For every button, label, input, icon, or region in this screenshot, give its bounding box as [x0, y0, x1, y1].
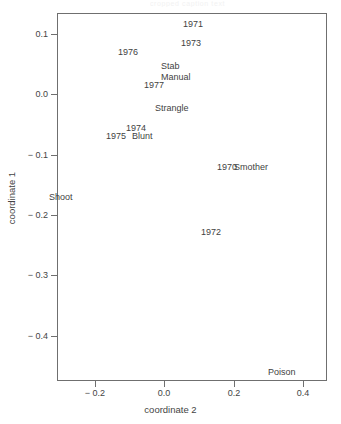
data-point-label-stab: Stab [161, 62, 180, 71]
data-point-label-1973: 1973 [181, 39, 201, 48]
x-tick-mark [95, 381, 96, 387]
data-point-label-manual: Manual [161, 73, 191, 82]
y-tick-mark [51, 215, 57, 216]
x-tick-label: 0.0 [158, 389, 171, 398]
x-tick-label: 0.4 [297, 389, 310, 398]
scatter-plot-figure: cropped caption text 0.10.0− 0.1− 0.2− 0… [0, 0, 341, 424]
data-point-label-strangle: Strangle [155, 104, 189, 113]
data-point-label-1975: 1975 [106, 132, 126, 141]
data-point-label-1971: 1971 [183, 20, 203, 29]
data-point-label-blunt: Blunt [132, 132, 153, 141]
data-point-label-1976: 1976 [118, 48, 138, 57]
x-tick-mark [164, 381, 165, 387]
y-tick-label: − 0.2 [28, 211, 48, 220]
y-tick-mark [51, 94, 57, 95]
data-point-label-shoot: Shoot [49, 193, 73, 202]
x-tick-mark [234, 381, 235, 387]
y-tick-label: − 0.3 [28, 271, 48, 280]
y-tick-label: 0.1 [35, 30, 48, 39]
x-tick-label: 0.2 [228, 389, 241, 398]
y-tick-mark [51, 336, 57, 337]
data-point-label-1972: 1972 [201, 228, 221, 237]
y-tick-label: − 0.4 [28, 332, 48, 341]
y-axis-title: coordinate 1 [7, 143, 17, 253]
x-tick-label: − 0.2 [85, 389, 105, 398]
y-tick-mark [51, 155, 57, 156]
x-tick-mark [303, 381, 304, 387]
plot-frame [57, 13, 327, 381]
y-tick-label: 0.0 [35, 90, 48, 99]
y-tick-mark [51, 275, 57, 276]
cropped-header-text: cropped caption text [150, 0, 340, 7]
data-point-label-1977: 1977 [144, 81, 164, 90]
x-axis-title: coordinate 2 [0, 405, 341, 415]
data-point-label-poison: Poison [268, 368, 296, 377]
y-tick-mark [51, 34, 57, 35]
y-tick-label: − 0.1 [28, 151, 48, 160]
data-point-label-smother: Smother [234, 163, 268, 172]
